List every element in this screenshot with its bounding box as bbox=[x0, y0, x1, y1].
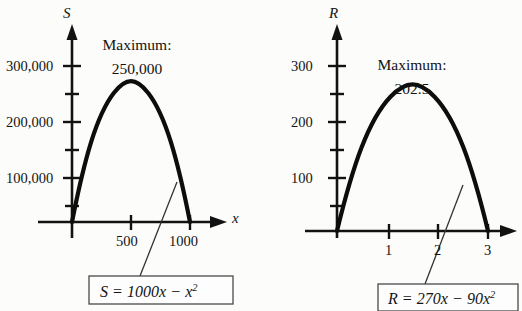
right-maximum-value: 202.5 bbox=[359, 81, 465, 97]
right-equation-square-base: 90x bbox=[467, 290, 490, 307]
left-x-tick-label-500: 500 bbox=[116, 234, 138, 249]
right-parabola-curve bbox=[337, 84, 488, 231]
right-x-tick-label-2: 2 bbox=[434, 243, 441, 258]
left-maximum-annotation: Maximum: 250,000 bbox=[84, 37, 190, 76]
left-y-tick-label-200000: 200,000 bbox=[6, 115, 53, 130]
left-equation-minus: − bbox=[171, 283, 180, 300]
right-maximum-title: Maximum: bbox=[359, 57, 465, 73]
left-y-axis-name: S bbox=[63, 6, 71, 21]
right-equation-linear-term: 270x bbox=[417, 290, 448, 307]
right-y-axis-name: R bbox=[329, 6, 338, 21]
right-equation-square-exponent: 2 bbox=[490, 289, 495, 300]
left-equation-equals: = bbox=[113, 283, 122, 300]
left-x-axis-name: x bbox=[232, 211, 239, 226]
left-x-tick-label-1000: 1000 bbox=[169, 234, 198, 249]
left-maximum-title: Maximum: bbox=[84, 37, 190, 53]
left-parabola-curve bbox=[72, 81, 190, 222]
right-leader-line bbox=[425, 185, 463, 284]
graph-canvas bbox=[0, 0, 522, 311]
left-maximum-value: 250,000 bbox=[84, 61, 190, 77]
right-equation-lhs: R bbox=[388, 290, 398, 307]
right-y-tick-label-200: 200 bbox=[291, 115, 313, 130]
right-equation-text: R=270x−90x2 bbox=[388, 290, 495, 307]
left-leader-line bbox=[140, 182, 177, 276]
right-x-tick-label-1: 1 bbox=[385, 243, 392, 258]
left-equation-lhs: S bbox=[100, 283, 108, 300]
right-equation-equals: = bbox=[403, 290, 412, 307]
right-equation-minus: − bbox=[453, 290, 462, 307]
left-equation-linear-term: 1000x bbox=[127, 283, 166, 300]
right-maximum-annotation: Maximum: 202.5 bbox=[359, 57, 465, 96]
left-equation-text: S=1000x−x2 bbox=[100, 283, 198, 300]
right-y-tick-label-100: 100 bbox=[291, 171, 313, 186]
left-y-tick-label-300000: 300,000 bbox=[6, 59, 53, 74]
left-equation-square-exponent: 2 bbox=[192, 282, 197, 293]
right-x-tick-label-3: 3 bbox=[484, 243, 491, 258]
right-y-tick-label-300: 300 bbox=[291, 59, 313, 74]
left-y-tick-label-100000: 100,000 bbox=[6, 171, 53, 186]
left-x-axis bbox=[38, 216, 227, 228]
figure-two-parabola-graphs: S x 300,000 200,000 100,000 500 1000 Max… bbox=[0, 0, 522, 311]
